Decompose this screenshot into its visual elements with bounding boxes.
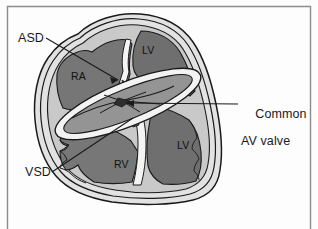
callout-label-vsd: VSD <box>25 166 51 180</box>
callout-label-common-av-valve: Common AV valve <box>241 94 307 175</box>
chamber-label-lv-lower: LV <box>177 140 189 151</box>
callout-label-asd: ASD <box>18 32 44 46</box>
callout-label-common-av-valve-line1: Common <box>255 107 306 121</box>
callout-label-common-av-valve-line2: AV valve <box>241 135 307 149</box>
chamber-label-rv: RV <box>114 159 129 170</box>
figure-root: ASD VSD Common AV valve RA LV LV RV <box>0 0 318 229</box>
chamber-label-lv-upper: LV <box>142 45 154 56</box>
chamber-label-ra: RA <box>71 71 86 82</box>
